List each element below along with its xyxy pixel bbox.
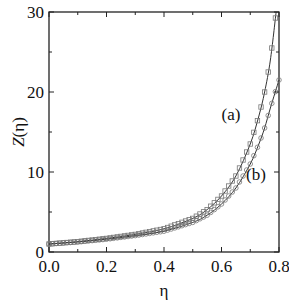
axis-ticks <box>49 12 279 252</box>
x-tick-label: 0.4 <box>153 257 175 276</box>
x-tick-label: 0.8 <box>268 257 289 276</box>
y-tick-label: 30 <box>27 3 44 22</box>
y-tick-label: 10 <box>27 163 44 182</box>
chart-canvas: 0.00.20.40.60.80102030ηZ(η)(a)(b) <box>0 0 289 301</box>
x-axis-title: η <box>160 281 169 300</box>
curve-a <box>49 12 276 244</box>
data-curves <box>47 12 282 246</box>
x-tick-label: 0.6 <box>211 257 232 276</box>
y-tick-label: 0 <box>36 243 45 262</box>
x-tick-label: 0.2 <box>96 257 117 276</box>
y-tick-label: 20 <box>27 83 44 102</box>
annotation-a: (a) <box>222 105 241 124</box>
plot-border <box>49 12 279 252</box>
y-axis-title: Z(η) <box>9 117 28 147</box>
annotation-b: (b) <box>246 165 266 184</box>
plot-frame <box>49 12 279 252</box>
